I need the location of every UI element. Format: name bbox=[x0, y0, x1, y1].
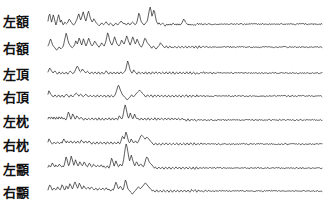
eeg-trace-right-temporal bbox=[48, 180, 322, 194]
eeg-trace-left-occipital bbox=[48, 105, 322, 121]
channel-label-left-temporal: 左顬 bbox=[3, 163, 28, 176]
channel-label-right-occipital: 右枕 bbox=[3, 139, 28, 152]
eeg-trace-right-frontal bbox=[48, 33, 322, 50]
eeg-trace-left-parietal bbox=[48, 61, 322, 74]
channel-label-right-frontal: 右額 bbox=[3, 42, 28, 55]
eeg-trace-left-temporal bbox=[48, 144, 322, 169]
channel-label-left-occipital: 左枕 bbox=[3, 115, 28, 128]
channel-label-left-frontal: 左額 bbox=[3, 15, 28, 28]
channel-label-right-parietal: 右頂 bbox=[3, 91, 28, 104]
eeg-trace-left-frontal bbox=[48, 7, 322, 26]
channel-label-right-temporal: 右顬 bbox=[3, 186, 28, 199]
channel-label-left-parietal: 左頂 bbox=[3, 68, 28, 81]
eeg-trace-right-parietal bbox=[48, 85, 322, 100]
eeg-chart: 左額右額左頂右頂左枕右枕左顬右顬 bbox=[0, 0, 327, 213]
eeg-trace-right-occipital bbox=[48, 132, 322, 145]
eeg-trace-canvas bbox=[0, 0, 327, 213]
